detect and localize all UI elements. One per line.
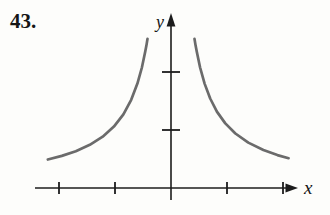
- problem-number: 43.: [10, 9, 36, 34]
- figure-container: 43. y x: [0, 0, 330, 215]
- y-axis-arrowhead: [167, 13, 176, 27]
- curves-group: [48, 39, 289, 160]
- x-axis-label: x: [303, 177, 313, 198]
- figure-canvas: y x: [0, 0, 330, 215]
- curve-right-branch: [195, 39, 289, 158]
- curve-left-branch: [48, 39, 148, 160]
- x-axis-arrowhead: [286, 184, 299, 193]
- y-axis-label: y: [154, 12, 164, 32]
